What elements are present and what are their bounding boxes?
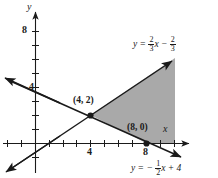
y-tick-label-8: 8 <box>22 25 27 35</box>
point-label-8-0: (8, 0) <box>127 123 148 133</box>
point-label-4-2: (4, 2) <box>73 96 94 106</box>
y-tick-label-4: 4 <box>29 82 34 92</box>
falling-eq-operator: + <box>168 163 174 173</box>
falling-line-equation: y = − 1 2 x + 4 <box>131 160 181 177</box>
rising-line-equation: y = 2 3 x − 2 3 <box>133 36 176 53</box>
falling-eq-constant: 4 <box>177 163 182 173</box>
x-tick-label-8: 8 <box>143 147 148 157</box>
point-4-2-dot <box>87 112 93 118</box>
falling-eq-equals: = <box>138 163 144 173</box>
y-axis-label: y <box>27 2 31 12</box>
rising-eq-constant-numerator: 2 <box>170 36 176 44</box>
falling-eq-slope-numerator: 1 <box>155 160 161 168</box>
rising-eq-slope-fraction: 2 3 <box>148 36 154 53</box>
rising-eq-equals: = <box>140 39 146 49</box>
falling-eq-lhs: y <box>131 163 135 173</box>
rising-eq-variable: x <box>154 39 158 49</box>
x-axis-label: x <box>163 124 167 134</box>
rising-eq-lhs: y <box>133 39 137 49</box>
rising-eq-slope-denominator: 3 <box>148 44 154 53</box>
falling-eq-sign: − <box>146 163 152 173</box>
rising-line-left-arrow <box>6 136 60 172</box>
rising-eq-operator: − <box>161 39 167 49</box>
rising-eq-slope-numerator: 2 <box>148 36 154 44</box>
x-tick-label-4: 4 <box>87 147 92 157</box>
rising-eq-constant-denominator: 3 <box>170 44 176 53</box>
falling-eq-variable: x <box>161 163 165 173</box>
falling-eq-slope-fraction: 1 2 <box>155 160 161 177</box>
rising-eq-constant-fraction: 2 3 <box>170 36 176 53</box>
graph-figure: y x 8 4 4 8 (4, 2) (8, 0) y = 2 3 x − 2 … <box>0 0 218 178</box>
falling-eq-slope-denominator: 2 <box>155 168 161 177</box>
